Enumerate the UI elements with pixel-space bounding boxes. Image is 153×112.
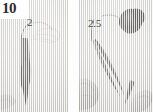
figure-number: 10: [2, 0, 16, 17]
panel-divider: [68, 0, 79, 112]
specimen-highlight: [22, 59, 26, 77]
figure-panel-group: 10 2 2.5: [0, 0, 153, 112]
callout-label-2-5: 2.5: [88, 17, 101, 29]
